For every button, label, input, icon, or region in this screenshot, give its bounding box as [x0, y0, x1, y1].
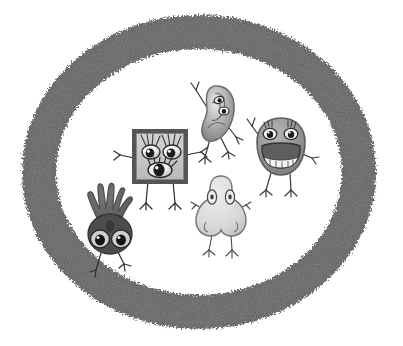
illustration-canvas: Five senses cartoon characters inside a … — [0, 0, 403, 346]
character-mouth[interactable] — [247, 118, 319, 197]
eye-square-legs — [140, 181, 181, 210]
scene-svg — [0, 0, 403, 346]
character-ear[interactable] — [191, 82, 243, 164]
nose-body — [196, 176, 246, 236]
nose-legs — [203, 235, 238, 258]
hand-nose — [107, 221, 114, 231]
ear-legs — [199, 138, 235, 164]
oval-ring — [39, 32, 359, 312]
ear-body — [202, 86, 234, 141]
mouth-legs — [260, 173, 297, 197]
character-nose[interactable] — [191, 176, 251, 258]
